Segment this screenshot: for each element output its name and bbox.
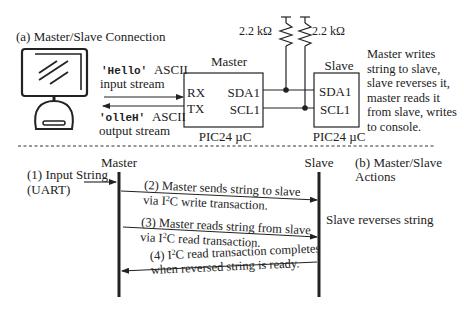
slave-chip: [314, 73, 359, 127]
svg-text:string to slave,: string to slave,: [367, 62, 440, 76]
master-pin-tx: TX: [187, 101, 205, 116]
part-a-title: (a) Master/Slave Connection: [16, 29, 166, 44]
master-pin-rx: RX: [187, 85, 206, 100]
part-b-title-1: (b) Master/Slave: [355, 155, 442, 170]
input-string-label-2: (UART): [27, 182, 70, 197]
slave-chip-label: PIC24 µC: [313, 129, 366, 144]
master-chip: [184, 73, 263, 127]
master-chip-label: PIC24 µC: [199, 129, 252, 144]
i2c-diagram: (a) Master/Slave Connection 'Hello' ASCI…: [0, 0, 464, 313]
slave-lifeline-label: Slave: [305, 155, 334, 170]
input-stream-label: 'Hello' ASCII: [101, 62, 188, 77]
output-stream-label: 'olleH' ASCII: [99, 109, 186, 124]
slave-pin-sda1: SDA1: [319, 84, 352, 99]
resistor-sda-icon: [280, 17, 292, 93]
slave-action-label: Slave reverses string: [326, 212, 434, 227]
svg-text:from slave, writes: from slave, writes: [367, 105, 457, 119]
message-4-line2: when reversed string is ready.: [151, 256, 300, 277]
part-b-title-2: Actions: [355, 169, 395, 184]
slave-pin-scl1: SCL1: [320, 102, 350, 117]
svg-text:slave reverses it,: slave reverses it,: [367, 76, 450, 90]
svg-text:Master writes: Master writes: [367, 47, 436, 61]
master-pin-sda1: SDA1: [227, 85, 260, 100]
slave-chip-title: Slave: [325, 58, 354, 73]
resistor-value-1: 2.2 kΩ: [239, 24, 272, 38]
input-ascii: ASCII: [154, 62, 188, 77]
svg-text:master reads it: master reads it: [367, 91, 440, 105]
input-stream-line2: input stream: [100, 76, 165, 91]
resistor-scl-icon: [299, 17, 311, 111]
svg-text:to console.: to console.: [367, 120, 421, 134]
input-string-label-1: (1) Input String: [27, 167, 108, 182]
master-pin-scl1: SCL1: [230, 102, 260, 117]
resistor-value-2: 2.2 kΩ: [312, 24, 345, 38]
computer-icon: [22, 49, 87, 129]
output-ascii: ASCII: [152, 109, 186, 124]
master-chip-title: Master: [211, 54, 248, 69]
description-text: Master writes string to slave, slave rev…: [367, 47, 457, 134]
output-stream-line2: output stream: [99, 123, 170, 138]
